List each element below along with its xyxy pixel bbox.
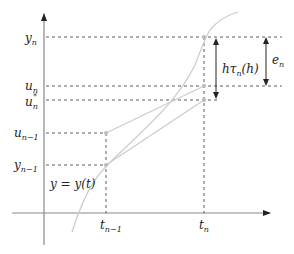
label-u-n-star-sup: *: [33, 92, 37, 101]
point-u-n-minus-1: [104, 131, 108, 135]
point-y-n: [202, 35, 206, 39]
point-u-n-star: [202, 98, 206, 102]
axes: [12, 14, 270, 245]
label-t-n-minus-1: tn−1: [100, 218, 122, 234]
global-error-arrow: [263, 37, 269, 86]
point-u-n: [202, 84, 206, 88]
points: [104, 35, 206, 167]
point-y-n-minus-1: [104, 163, 108, 167]
label-u-n-minus-1: un−1: [14, 126, 39, 142]
label-t-n: tn: [199, 218, 209, 234]
label-local-error: hτn(h): [222, 62, 259, 78]
label-y-n-minus-1: yn−1: [13, 158, 38, 174]
diagram-canvas: yn un un * un−1 yn−1 tn−1 tn y = y(t) hτ…: [0, 0, 294, 254]
label-curve: y = y(t): [49, 177, 96, 191]
local-error-arrow: [213, 38, 219, 99]
label-y-n: yn: [24, 31, 37, 47]
label-global-error: en: [272, 53, 284, 69]
